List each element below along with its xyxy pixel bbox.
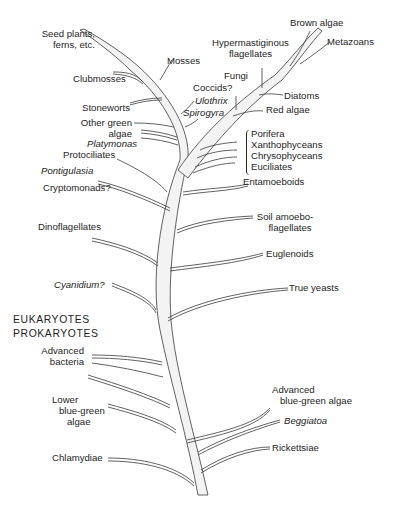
label-advanced-bacteria-line2: bacteria [30,356,84,367]
branch-dinoflagellates-2 [92,241,158,266]
label-red-algae: Red algae [266,104,310,115]
label-lower-bga-line3: algae [52,416,105,427]
branch-beggiatoa-2 [198,422,280,455]
branch-advanced-bacteria-2 [92,358,162,365]
branch-cyanidium-2 [112,286,156,313]
branch-soil-amoebo [177,216,253,230]
label-chlamydiae: Chlamydiae [52,452,103,463]
label-platymonas: Platymonas [87,138,137,149]
label-brown-algae: Brown algae [290,17,343,28]
label-hypermastiginous-line2: flagellates [203,48,298,59]
label-other-green-line1: Other green [70,117,132,128]
label-advanced-bacteria-line1: Advanced [30,345,84,356]
label-seed-plants-line1: Seed plants, [30,28,95,39]
branch-spirogyra [185,119,198,127]
label-rickettsiae: Rickettsiae [272,442,319,453]
branch-true-yeasts-2 [168,290,288,321]
label-lower-bga-line2: blue-green [52,405,105,416]
label-metazoans: Metazoans [327,36,374,47]
label-clubmosses: Clubmosses [73,73,126,84]
label-lower-blue-green-algae: Lower blue-green algae [52,394,105,427]
branch-dinoflagellates [92,238,158,263]
label-chrysophyceans: Chrysophyceans [251,150,322,161]
branch-bacteria-b [92,363,163,377]
label-bracket-group: Porifera Xanthophyceans Chrysophyceans E… [251,128,322,172]
label-euglenoids: Euglenoids [266,248,313,259]
label-entamoeboids: Entamoeboids [243,176,304,187]
label-lower-bga-line1: Lower [52,394,105,405]
label-mosses: Mosses [167,55,200,66]
label-pontigulasia: Pontigulasia [41,165,93,176]
label-eukaryotes: EUKARYOTES [13,314,90,326]
label-diatoms: Diatoms [284,90,319,101]
branch-protociliates [117,159,167,192]
label-advanced-bacteria: Advanced bacteria [30,345,84,367]
branch-true-yeasts [168,288,288,318]
label-advanced-bga-line2: blue-green algae [272,395,352,406]
label-stoneworts: Stoneworts [82,102,130,113]
branch-platymonas [141,138,178,145]
branch-euglenoids [170,253,263,268]
branch-other-green [134,123,174,127]
branch-lower-bga-2 [108,407,176,433]
label-coccids: Coccids? [193,82,232,93]
branch-cyanidium [112,283,156,310]
label-true-yeasts: True yeasts [289,282,339,293]
tree-branches [0,0,393,519]
branch-algae-b [141,133,177,140]
label-prokaryotes: PROKARYOTES [13,328,99,340]
branch-rickettsiae-2 [201,449,270,473]
label-ulothrix: Ulothrix [195,95,228,106]
label-soil-amoebo-line1: Soil amoebo- [250,211,320,222]
label-soil-amoeboflagellates: Soil amoebo- flagellates [250,211,320,233]
label-cryptomonads: Cryptomonads? [43,182,111,193]
label-advanced-bga-line1: Advanced [272,384,352,395]
branch-euglenoids-2 [170,255,263,271]
branch-stoneworts-2 [130,100,162,105]
label-euciliates: Euciliates [251,161,322,172]
label-seed-plants: Seed plants, ferns, etc. [30,28,95,50]
label-spirogyra: Spirogyra [183,107,224,118]
branch-euciliates [193,163,235,173]
label-hypermastiginous-line1: Hypermastiginous [203,37,298,48]
label-advanced-blue-green-algae: Advanced blue-green algae [272,384,352,406]
label-dinoflagellates: Dinoflagellates [38,221,101,232]
label-protociliates: Protociliates [63,149,115,160]
label-seed-plants-line2: ferns, etc. [30,39,95,50]
label-hypermastiginous-flagellates: Hypermastiginous flagellates [203,37,298,59]
label-beggiatoa: Beggiatoa [284,415,327,426]
phylogenetic-tree-diagram: Seed plants, ferns, etc. Clubmosses Moss… [0,0,393,519]
label-xanthophyceans: Xanthophyceans [251,139,322,150]
label-cyanidium: Cyanidium? [54,279,105,290]
branch-advanced-bga [187,408,270,440]
label-soil-amoebo-line2: flagellates [250,222,320,233]
label-fungi: Fungi [224,70,248,81]
label-porifera: Porifera [251,128,322,139]
label-other-green-algae: Other green algae [70,117,132,139]
